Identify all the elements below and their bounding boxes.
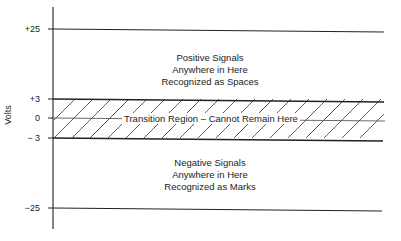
negative-region-text: Negative Signals Anywhere in Here Recogn… — [110, 157, 310, 193]
positive-region-text: Positive Signals Anywhere in Here Recogn… — [110, 52, 310, 88]
tick-label-plus25: +25 — [8, 24, 40, 34]
tick-label-plus3: +3 — [8, 94, 40, 104]
tick-label-zero: 0 — [8, 113, 40, 123]
tick-label-minus25: −25 — [8, 203, 40, 213]
transition-region-label: Transition Region – Cannot Remain Here — [122, 113, 300, 124]
level-line-minus25 — [53, 208, 382, 211]
level-line-plus25 — [53, 29, 384, 32]
level-line-minus3 — [53, 138, 383, 141]
y-axis-label: Volts — [3, 105, 13, 125]
tick-label-minus3: − 3 — [8, 133, 40, 143]
